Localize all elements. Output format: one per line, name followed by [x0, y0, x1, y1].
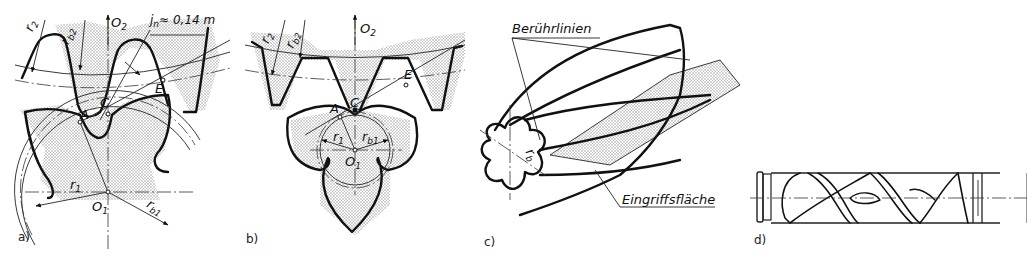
caption-a: a)	[18, 231, 30, 243]
panel-b: r2 rb2 O2 C A E r1 rb1 O1 b)	[240, 0, 470, 261]
label-engagement-surface: Eingriffsfläche	[622, 193, 715, 206]
label-O2: O2	[111, 16, 127, 32]
label-O1: O1	[345, 155, 361, 171]
helical-rotor-side-view-d	[730, 0, 1027, 261]
caption-d: d)	[754, 234, 766, 246]
helical-rotor-perspective-c	[470, 0, 750, 261]
caption-c: c)	[484, 236, 495, 248]
panel-a: r2 rb2 O2 jn≈ 0,14 m C A E r1 O1 rb1 a)	[0, 0, 240, 261]
label-O2: O2	[360, 22, 376, 38]
label-point-E: E	[155, 82, 163, 95]
label-r1: r1	[333, 130, 344, 146]
label-point-C: C	[100, 96, 109, 109]
label-contact-lines: Berührlinien	[512, 22, 591, 35]
gear-mesh-drawing-a	[0, 0, 240, 261]
panel-d: d)	[730, 0, 1027, 261]
panel-c: Berührlinien rb Eingriffsfläche c)	[470, 0, 750, 261]
label-rb1: rb1	[362, 130, 379, 146]
label-backlash: jn≈ 0,14 m	[150, 14, 215, 29]
label-point-C: C	[350, 96, 359, 109]
label-point-E: E	[404, 68, 412, 81]
caption-b: b)	[246, 233, 258, 245]
label-point-A: A	[330, 102, 339, 115]
label-point-A: A	[80, 108, 89, 121]
label-r1: r1	[70, 178, 81, 194]
label-O1: O1	[92, 200, 108, 216]
